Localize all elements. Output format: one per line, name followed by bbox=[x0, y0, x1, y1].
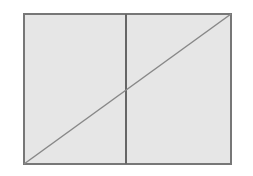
geometry-figure bbox=[0, 0, 253, 176]
diagram-canvas bbox=[0, 0, 253, 176]
